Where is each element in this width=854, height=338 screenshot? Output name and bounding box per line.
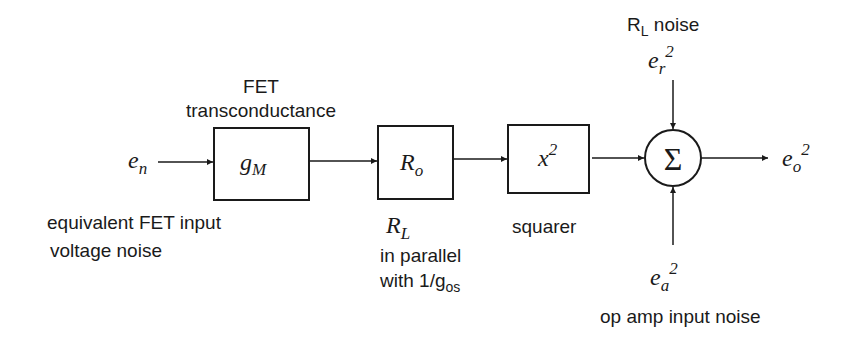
opamp-noise-label: op amp input noise (600, 306, 761, 327)
rl-noise-symbol: er2 (648, 42, 674, 78)
opamp-noise-symbol: ea2 (650, 259, 678, 295)
gm-label-line2: transconductance (186, 100, 336, 121)
ro-label-line2: with 1/gos (379, 270, 460, 295)
gm-symbol: gM (240, 149, 267, 179)
gm-label-line1: FET (243, 76, 279, 97)
diagram-canvas: en equivalent FET input voltage noise FE… (0, 0, 854, 338)
ro-symbol: Ro (399, 149, 423, 180)
output-signal-label: eo2 (782, 140, 810, 176)
squarer-symbol: x2 (537, 140, 558, 171)
input-description-line2: voltage noise (50, 240, 162, 261)
input-description-line1: equivalent FET input (47, 212, 222, 233)
noise-block-diagram: en equivalent FET input voltage noise FE… (0, 0, 854, 338)
ro-label-line1: in parallel (380, 245, 461, 266)
sigma-symbol: Σ (664, 141, 683, 177)
rl-noise-label: RL noise (627, 14, 699, 39)
ro-label-symbol: RL (385, 212, 410, 243)
squarer-label: squarer (512, 216, 577, 237)
input-signal-label: en (128, 147, 147, 178)
